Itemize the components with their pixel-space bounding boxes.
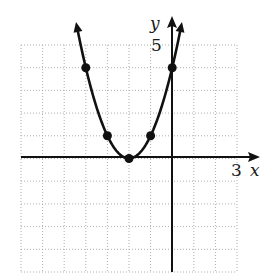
- axes: [21, 16, 260, 272]
- data-point: [103, 131, 112, 140]
- curve-arrow-right-icon: [176, 22, 185, 33]
- parabola-graph: y 5 3 x: [0, 0, 270, 279]
- x-axis-label: x: [250, 160, 260, 180]
- y-tick-label: 5: [151, 35, 162, 55]
- x-tick-label: 3: [231, 160, 242, 180]
- data-point: [81, 63, 90, 72]
- data-point: [125, 154, 134, 163]
- data-point: [146, 131, 155, 140]
- curve-arrow-left-icon: [74, 22, 83, 33]
- data-point: [168, 63, 177, 72]
- parabola-path: [78, 30, 181, 159]
- y-axis-label: y: [149, 13, 160, 33]
